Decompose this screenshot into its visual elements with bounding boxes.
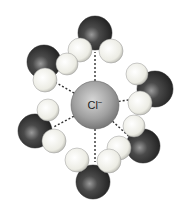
hydrogen-atom	[56, 53, 78, 75]
hydrogen-atom	[65, 148, 89, 172]
hydrogen-atom	[33, 68, 57, 92]
water-molecule-bottom	[65, 148, 121, 199]
hydrogen-atom	[97, 149, 121, 173]
chloride-ion: Cl−	[71, 81, 119, 129]
hydrogen-bond-lower-left	[54, 116, 74, 126]
water-molecule-lower-left	[18, 99, 66, 153]
water-molecule-right	[126, 63, 173, 115]
hydrogen-atom	[99, 39, 123, 63]
hydrogen-atom	[128, 91, 152, 115]
hydrogen-atom	[126, 63, 148, 85]
hydrogen-atom	[123, 115, 145, 137]
chloride-hydration-diagram: Cl−	[0, 0, 183, 213]
hydrogen-atom	[42, 129, 66, 153]
hydrogen-atom	[37, 99, 59, 121]
